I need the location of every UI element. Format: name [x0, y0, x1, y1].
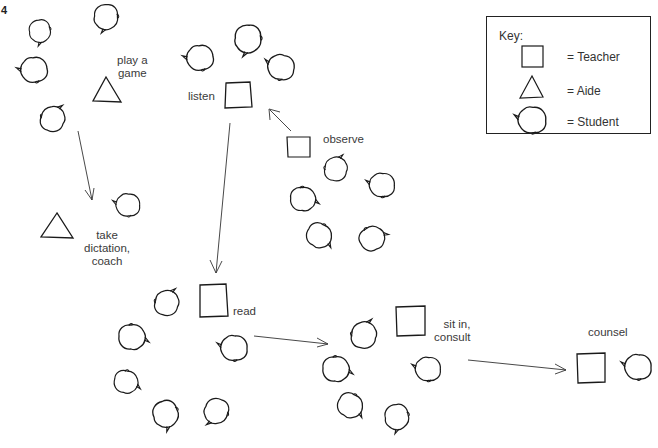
student-icon [621, 354, 651, 380]
student-icon [291, 186, 320, 211]
student-icon [94, 5, 119, 34]
student-icon [200, 395, 233, 430]
label-read: read [233, 305, 256, 318]
label-observe: observe [323, 133, 364, 146]
teacher-icon [200, 284, 228, 317]
group-sit-in [323, 306, 441, 435]
label-line: play a [117, 54, 148, 67]
student-icon [113, 194, 140, 217]
aide-icon [41, 213, 73, 238]
teacher-icon [577, 353, 605, 383]
label-play-game: play a game [117, 54, 148, 80]
student-icon [113, 368, 144, 396]
group-read [113, 284, 248, 434]
arrow-line [270, 110, 291, 131]
label-line: game [117, 67, 148, 80]
group-play-game [15, 5, 121, 135]
label-listen: listen [188, 90, 215, 103]
label-dictation: take dictation, coach [84, 229, 130, 268]
legend-entry-teacher: = Teacher [567, 50, 620, 64]
label-line: dictation, [84, 242, 130, 255]
legend-entry-aide: = Aide [567, 84, 601, 98]
label-line: sit in, [434, 318, 470, 331]
student-icon [119, 324, 149, 350]
student-icon [302, 218, 339, 254]
arrow-line [78, 131, 92, 200]
student-icon [262, 52, 296, 83]
student-icon [333, 388, 370, 424]
group-observe [287, 137, 394, 255]
group-counsel [577, 353, 651, 383]
legend-key: Key: = Teacher = Aide = Student [486, 16, 651, 134]
student-icon [181, 43, 215, 74]
legend-entry-student: = Student [567, 115, 619, 129]
arrow-line [254, 336, 328, 344]
student-icon [355, 219, 392, 255]
label-sit-in: sit in, consult [434, 318, 470, 344]
teacher-icon [287, 137, 310, 157]
student-icon [235, 25, 262, 57]
student-icon [15, 55, 49, 86]
arrow-line [468, 360, 566, 370]
aide-icon [93, 77, 121, 102]
student-icon [36, 99, 69, 134]
teacher-icon [225, 82, 252, 108]
label-counsel: counsel [588, 326, 628, 339]
teacher-icon [396, 306, 425, 336]
student-icon [149, 397, 184, 434]
label-line: consult [434, 331, 470, 344]
student-icon [366, 173, 395, 198]
arrowhead-icon [317, 338, 328, 347]
student-icon [322, 152, 350, 183]
legend-title: Key: [499, 29, 523, 43]
student-icon [348, 316, 379, 350]
student-icon [383, 403, 412, 435]
student-icon [27, 18, 53, 47]
label-line: take [84, 229, 130, 242]
student-icon [323, 356, 353, 382]
page-number: 4 [1, 4, 7, 16]
label-line: coach [84, 255, 130, 268]
student-icon [217, 335, 247, 361]
arrow-line [216, 123, 230, 273]
student-icon [412, 357, 441, 382]
student-icon [151, 284, 182, 318]
